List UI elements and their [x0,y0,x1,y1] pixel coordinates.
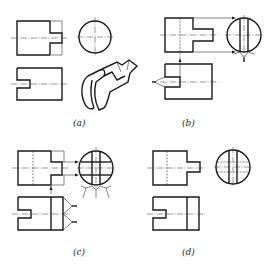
panel-b-top-view [152,58,218,99]
panel-d-front-view [147,151,205,185]
panel-d: (d) [147,147,252,257]
panel-a: (a) [11,17,137,128]
panel-a-front-view [11,21,67,55]
panel-d-label: (d) [182,247,195,257]
panel-b-label: (b) [182,118,195,128]
panel-d-top-view [147,197,205,230]
panel-b-side-view [225,15,263,62]
panel-c-side-view [77,147,115,198]
panel-c-top-view [12,197,77,230]
panel-a-label: (a) [73,118,86,128]
panel-c-front-view [12,151,79,194]
panel-d-side-view [214,147,252,187]
panel-b: (b) [152,15,263,128]
panel-a-top-view [11,68,67,100]
panel-a-pictorial [82,60,137,110]
panel-a-side-view [77,17,113,57]
panel-b-front-view [160,17,236,59]
panel-c: (c) [12,147,115,257]
technical-drawing: (a) [0,0,273,266]
panel-c-label: (c) [73,247,86,257]
